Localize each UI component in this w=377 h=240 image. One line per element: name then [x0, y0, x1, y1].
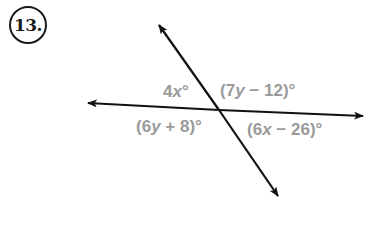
angle-label-top-left: 4x°: [163, 83, 189, 100]
horizontal-line-right: [219, 110, 363, 116]
horizontal-line-left: [88, 103, 219, 110]
angle-variable: y: [151, 117, 160, 136]
angle-expression-start: (7: [220, 81, 235, 100]
angle-expression-start: (6: [247, 120, 262, 139]
angle-label-bottom-left: (6y + 8)°: [136, 118, 202, 135]
angle-degree: °: [182, 82, 189, 101]
angle-variable: x: [172, 82, 181, 101]
angle-variable: x: [262, 120, 271, 139]
angle-label-top-right: (7y − 12)°: [220, 82, 295, 99]
angle-expression-start: (6: [136, 117, 151, 136]
angle-label-bottom-right: (6x − 26)°: [247, 121, 322, 138]
angle-expression-end: + 8)°: [161, 117, 202, 136]
angle-expression-end: − 26)°: [272, 120, 323, 139]
angle-variable: y: [235, 81, 244, 100]
angle-expression-end: − 12)°: [245, 81, 296, 100]
